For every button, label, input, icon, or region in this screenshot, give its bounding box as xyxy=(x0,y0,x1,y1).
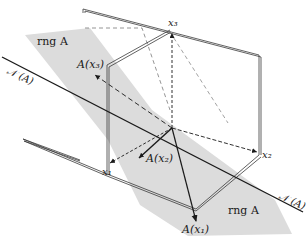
rng-label-top: rng A xyxy=(37,35,69,48)
x3-label: x₃ xyxy=(168,17,178,28)
x2-label: x₂ xyxy=(262,149,272,160)
Ax2-label: A(x₂) xyxy=(145,152,173,165)
x1-label: x₁ xyxy=(102,166,112,177)
Ax3-label: A(x₃) xyxy=(76,58,104,71)
rng-label-bottom: rng A xyxy=(228,204,260,217)
Ax1-label: A(x₁) xyxy=(181,223,209,236)
dashed-diagonal xyxy=(170,32,228,123)
linear-map-diagram: rng A rng A 𝒩 (A) 𝒩 (A) x₃ x₂ x₁ A(x₃) A… xyxy=(0,0,307,238)
null-label-left: 𝒩 (A) xyxy=(5,65,35,87)
null-label-right: 𝒩 (A) xyxy=(277,190,307,212)
